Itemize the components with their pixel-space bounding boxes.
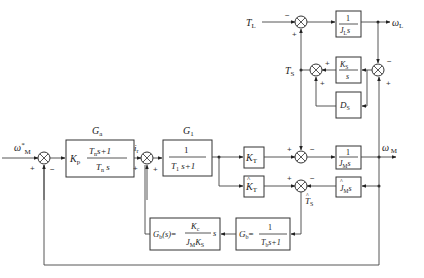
KT-hat-block: KT ^ — [244, 175, 264, 197]
line-diff-DS — [362, 70, 367, 106]
sign-plus: + — [386, 79, 391, 88]
sign-plus: + — [287, 145, 292, 154]
summing-junction-1 — [38, 152, 50, 164]
sign-plus: + — [133, 164, 138, 173]
summing-junction-diff — [372, 64, 384, 76]
Ga-label: Ga — [92, 125, 103, 138]
svg-text:T1 s+1: T1 s+1 — [171, 161, 195, 172]
JM-hat-block: JMs ^ — [336, 177, 361, 197]
svg-text:s: s — [346, 72, 349, 81]
sign-plus: + — [287, 174, 292, 183]
sign-plus: + — [30, 164, 35, 173]
svg-text:1: 1 — [184, 145, 189, 155]
sign-plus: + — [292, 30, 297, 39]
summing-junction-2 — [141, 152, 153, 164]
Gbs-block: Gb(s)= Kc JMKS s — [150, 218, 220, 250]
Gb-block: Gb= 1 Tbs+1 — [236, 218, 290, 250]
svg-text:Tn s: Tn s — [96, 162, 110, 173]
DS-block: DS — [336, 92, 361, 118]
summing-junction-TL — [295, 16, 307, 28]
summing-junction-TS — [310, 64, 322, 76]
svg-text:1: 1 — [346, 148, 350, 157]
omega-m-ref-label: ω*M — [14, 141, 32, 156]
sign-plus: + — [153, 165, 158, 174]
inv-JM-block: 1 JMs — [336, 146, 361, 169]
svg-text:Gb(s)=: Gb(s)= — [153, 229, 176, 240]
sign-minus: − — [310, 145, 315, 154]
sign-minus: − — [285, 11, 290, 20]
sign-plus: + — [320, 79, 325, 88]
sign-minus: − — [310, 174, 315, 183]
summing-junction-4 — [295, 180, 307, 192]
line-TShat-Gb — [291, 192, 301, 234]
block-diagram: ω*M + − Ga Kp Tns+1 Tn s ir + + G1 1 T1 … — [0, 0, 424, 278]
G1-label: G1 — [183, 125, 194, 138]
svg-text:1: 1 — [346, 14, 350, 23]
inv-JL-block: 1 JLs — [336, 11, 361, 37]
KT-block: KT — [244, 147, 264, 168]
svg-text:Tns+1: Tns+1 — [89, 146, 111, 157]
summing-junction-3 — [295, 151, 307, 163]
svg-text:1: 1 — [268, 223, 272, 232]
line-DS-sumTS — [316, 77, 336, 106]
sign-minus: − — [50, 165, 55, 174]
T-S-label: TS — [285, 65, 295, 78]
sign-plus: + — [325, 59, 330, 68]
line-branch-KThat — [219, 157, 243, 186]
hat-mark: ^ — [306, 192, 309, 198]
i-r-label: ir — [134, 143, 139, 154]
G1-block: 1 T1 s+1 — [163, 140, 212, 176]
svg-text:Tbs+1: Tbs+1 — [261, 238, 281, 248]
omega-L-label: ωL — [392, 17, 403, 30]
line-Gbs-sum2 — [145, 165, 150, 234]
omega-M-label: ω M — [382, 142, 398, 155]
T-L-label: TL — [246, 17, 256, 30]
Ga-block: Kp Tns+1 Tn s — [66, 140, 134, 177]
sign-minus: − — [387, 57, 392, 66]
KS-block: KS s — [336, 57, 361, 83]
svg-text:^: ^ — [340, 178, 343, 184]
